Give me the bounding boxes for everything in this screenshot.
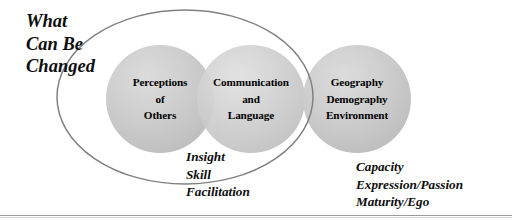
diagram-canvas: What Can Be Changed Perceptions of Other… [0,0,512,222]
diagram-title: What Can Be Changed [26,10,95,78]
label-line-2: and [198,91,304,108]
bottom-divider-shadow [0,217,512,218]
label-line-3: Language [198,107,304,124]
label-line-2: of [110,91,210,108]
caption-line-1: Insight [186,148,250,166]
title-line-1: What [26,10,95,33]
label-geography-demography-environment: Geography Demography Environment [305,74,409,124]
caption-line-3: Maturity/Ego [356,193,463,211]
label-line-3: Environment [305,107,409,124]
caption-line-2: Expression/Passion [356,176,463,194]
label-line-1: Communication [198,74,304,91]
label-line-2: Demography [305,91,409,108]
caption-line-3: Facilitation [186,183,250,201]
title-line-2: Can Be [26,33,95,56]
caption-outer: Capacity Expression/Passion Maturity/Ego [356,158,463,211]
label-perceptions-of-others: Perceptions of Others [110,74,210,124]
label-line-1: Perceptions [110,74,210,91]
caption-inner: Insight Skill Facilitation [186,148,250,201]
title-line-3: Changed [26,55,95,78]
label-line-1: Geography [305,74,409,91]
label-line-3: Others [110,107,210,124]
caption-line-2: Skill [186,166,250,184]
caption-line-1: Capacity [356,158,463,176]
label-communication-and-language: Communication and Language [198,74,304,124]
bottom-divider [0,215,512,216]
